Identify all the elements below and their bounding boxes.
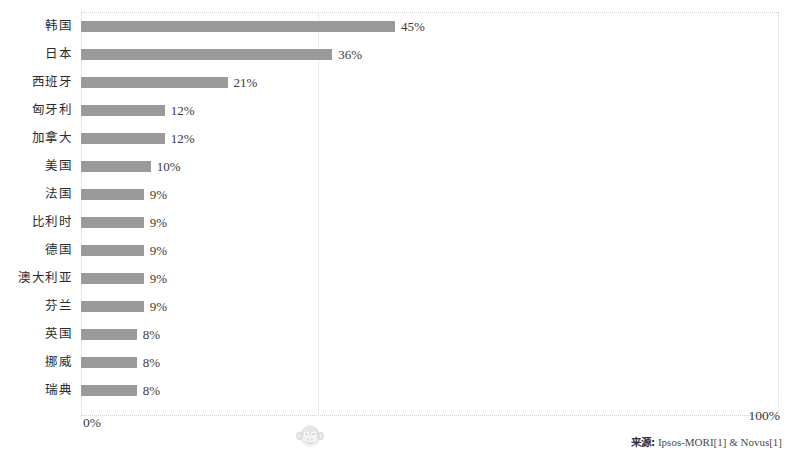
category-label: 韩国 — [45, 12, 72, 40]
bar-value-label: 9% — [150, 244, 167, 257]
category-label: 匈牙利 — [32, 96, 73, 124]
monkey-face-icon — [296, 424, 324, 448]
bar-and-value: 9% — [81, 292, 167, 320]
bar-and-value: 12% — [81, 124, 195, 152]
bar-value-label: 10% — [157, 160, 181, 173]
bar-value-label: 8% — [143, 384, 160, 397]
bar-row: 英国8% — [0, 320, 788, 348]
bar-and-value: 36% — [81, 40, 362, 68]
bar-row: 匈牙利12% — [0, 96, 788, 124]
bar — [81, 245, 144, 256]
category-label: 日本 — [45, 40, 72, 68]
category-label: 西班牙 — [32, 68, 73, 96]
bar — [81, 273, 144, 284]
category-label: 瑞典 — [45, 376, 72, 404]
bar-row: 法国9% — [0, 180, 788, 208]
source-text: Ipsos-MORI[1] & Novus[1] — [658, 436, 782, 448]
bar — [81, 301, 144, 312]
bar-value-label: 9% — [150, 188, 167, 201]
bar-value-label: 45% — [401, 20, 425, 33]
axis-tick-min: 0% — [83, 415, 101, 431]
bar-row: 德国9% — [0, 236, 788, 264]
bar — [81, 161, 151, 172]
bar — [81, 329, 137, 340]
bar-and-value: 9% — [81, 180, 167, 208]
bar-value-label: 8% — [143, 328, 160, 341]
bar-rows-container: 韩国45%日本36%西班牙21%匈牙利12%加拿大12%美国10%法国9%比利时… — [0, 12, 788, 404]
category-label: 比利时 — [32, 208, 73, 236]
category-label: 挪威 — [45, 348, 72, 376]
category-label: 法国 — [45, 180, 72, 208]
bar-and-value: 9% — [81, 208, 167, 236]
bar-and-value: 8% — [81, 376, 160, 404]
bar-value-label: 8% — [143, 356, 160, 369]
bar-value-label: 9% — [150, 300, 167, 313]
bar-and-value: 9% — [81, 236, 167, 264]
bar-and-value: 9% — [81, 264, 167, 292]
bar-and-value: 12% — [81, 96, 195, 124]
bar-row: 西班牙21% — [0, 68, 788, 96]
bar-and-value: 10% — [81, 152, 181, 180]
source-label: 来源: — [631, 436, 655, 448]
bar-row: 芬兰9% — [0, 292, 788, 320]
bar-value-label: 12% — [171, 132, 195, 145]
source-note: 来源: Ipsos-MORI[1] & Novus[1] — [631, 434, 782, 449]
bar — [81, 357, 137, 368]
bar-value-label: 12% — [171, 104, 195, 117]
bar-row: 瑞典8% — [0, 376, 788, 404]
bar-value-label: 21% — [234, 76, 258, 89]
category-label: 美国 — [45, 152, 72, 180]
bar — [81, 77, 228, 88]
bar — [81, 133, 165, 144]
bar-and-value: 8% — [81, 320, 160, 348]
bar-row: 比利时9% — [0, 208, 788, 236]
category-label: 英国 — [45, 320, 72, 348]
category-label: 澳大利亚 — [18, 264, 72, 292]
category-label: 德国 — [45, 236, 72, 264]
bar — [81, 105, 165, 116]
bar-row: 美国10% — [0, 152, 788, 180]
bar-row: 日本36% — [0, 40, 788, 68]
axis-tick-max: 100% — [749, 408, 781, 424]
category-label: 芬兰 — [45, 292, 72, 320]
bar-and-value: 21% — [81, 68, 257, 96]
bar-row: 韩国45% — [0, 12, 788, 40]
bar — [81, 385, 137, 396]
chart-screenshot: 韩国45%日本36%西班牙21%匈牙利12%加拿大12%美国10%法国9%比利时… — [0, 0, 788, 455]
bar-and-value: 45% — [81, 12, 425, 40]
bar-value-label: 9% — [150, 272, 167, 285]
bar-value-label: 9% — [150, 216, 167, 229]
bar-value-label: 36% — [338, 48, 362, 61]
bar — [81, 189, 144, 200]
bar — [81, 49, 332, 60]
bar-and-value: 8% — [81, 348, 160, 376]
bar — [81, 21, 395, 32]
bar — [81, 217, 144, 228]
category-label: 加拿大 — [32, 124, 73, 152]
bar-row: 挪威8% — [0, 348, 788, 376]
bar-row: 澳大利亚9% — [0, 264, 788, 292]
bar-row: 加拿大12% — [0, 124, 788, 152]
